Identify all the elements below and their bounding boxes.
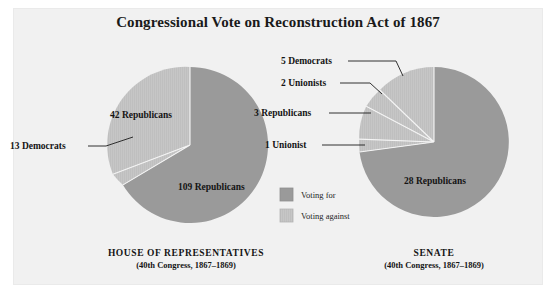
- house-label-42-republicans: 42 Republicans: [110, 110, 172, 120]
- house-caption-subtitle: (40th Congress, 1867–1869): [136, 260, 236, 270]
- senate-leader-5-democrats: [348, 61, 403, 76]
- senate-label-5-democrats: 5 Democrats: [281, 56, 332, 66]
- senate-leader-2-unionists: [340, 83, 382, 94]
- pie-chart-svg: 42 Republicans 109 Republicans 13 Democr…: [0, 0, 556, 294]
- house-caption-title: HOUSE OF REPRESENTATIVES: [108, 248, 264, 258]
- house-caption: HOUSE OF REPRESENTATIVES (40th Congress,…: [108, 248, 264, 270]
- legend-label-voting-for: Voting for: [301, 190, 336, 200]
- figure-root: Congressional Vote on Reconstruction Act…: [0, 0, 556, 294]
- senate-caption: SENATE (40th Congress, 1867–1869): [384, 248, 484, 270]
- senate-label-28-republicans: 28 Republicans: [404, 176, 466, 186]
- house-pie: 42 Republicans 109 Republicans 13 Democr…: [10, 67, 268, 223]
- house-label-109-republicans: 109 Republicans: [178, 182, 245, 192]
- senate-caption-title: SENATE: [414, 248, 455, 258]
- voting-for-swatch: [280, 188, 293, 201]
- house-label-13-democrats: 13 Democrats: [10, 141, 66, 151]
- legend: Voting for Voting against: [280, 188, 350, 222]
- senate-label-2-unionists: 2 Unionists: [281, 78, 326, 88]
- legend-label-voting-against: Voting against: [301, 211, 350, 221]
- senate-label-1-unionist: 1 Unionist: [265, 140, 307, 150]
- senate-caption-subtitle: (40th Congress, 1867–1869): [384, 260, 484, 270]
- voting-against-swatch: [280, 209, 293, 222]
- senate-label-3-republicans: 3 Republicans: [254, 108, 312, 118]
